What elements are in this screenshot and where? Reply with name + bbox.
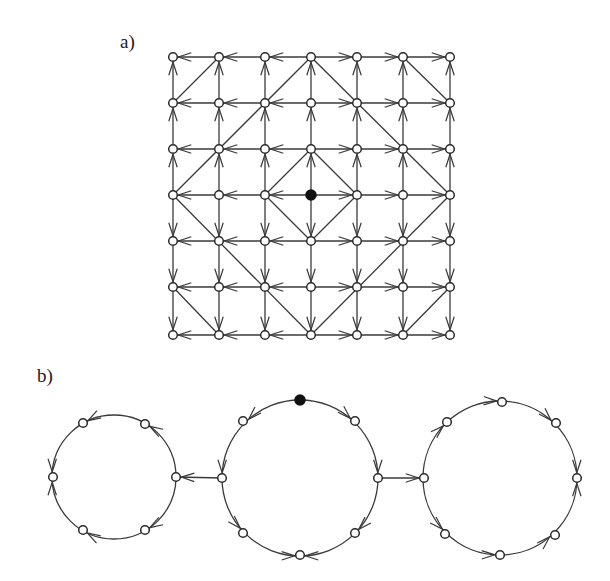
grid-node — [446, 237, 455, 246]
diagonal-line — [265, 149, 311, 195]
cycle-node — [498, 398, 507, 407]
diagonal-line — [265, 195, 311, 241]
arrowhead-icon — [88, 411, 101, 421]
grid-node — [215, 283, 224, 292]
grid-node — [261, 283, 270, 292]
arrowhead-icon — [573, 460, 581, 473]
grid-node — [169, 331, 178, 340]
grid-node — [169, 99, 178, 108]
arrowhead-icon — [218, 460, 226, 473]
arrowhead-icon — [482, 551, 495, 559]
left-cycle-ring — [52, 415, 176, 539]
diagonal-line — [311, 195, 357, 241]
grid-node — [446, 283, 455, 292]
cycle-node — [239, 529, 248, 538]
grid-node — [399, 99, 408, 108]
grid-node — [261, 99, 270, 108]
cycle-node — [552, 419, 561, 428]
cycle-node — [496, 551, 505, 560]
grid-node — [446, 99, 455, 108]
arrowhead-icon — [48, 482, 56, 495]
grid-node — [215, 331, 224, 340]
arrowhead-icon — [87, 533, 100, 543]
cycle-node — [420, 474, 429, 483]
grid-node — [353, 99, 362, 108]
grid-node — [169, 145, 178, 154]
grid-node — [307, 237, 316, 246]
grid-node — [353, 331, 362, 340]
grid-node — [446, 145, 455, 154]
cycle-node — [441, 530, 450, 539]
figure-canvas: a) b) — [0, 0, 610, 581]
cycle-node — [573, 474, 582, 483]
grid-node — [215, 145, 224, 154]
grid-node — [399, 191, 408, 200]
cycle-node — [374, 474, 383, 483]
grid-node — [261, 237, 270, 246]
diagonal-line — [173, 287, 219, 335]
graph-diagram — [0, 0, 610, 581]
grid-node — [399, 283, 408, 292]
cycle-graph-panel-b — [48, 395, 581, 560]
grid-node — [446, 53, 455, 62]
grid-node — [169, 237, 178, 246]
arrowhead-icon — [573, 483, 581, 496]
source-node — [295, 395, 305, 405]
diagonal-line — [311, 149, 357, 195]
grid-node — [169, 191, 178, 200]
grid-node — [399, 145, 408, 154]
grid-node — [215, 237, 224, 246]
cycle-node — [296, 551, 305, 560]
grid-node — [399, 331, 408, 340]
grid-node — [169, 283, 178, 292]
arrowhead-icon — [374, 460, 382, 473]
grid-node — [353, 145, 362, 154]
cycle-node — [141, 420, 150, 429]
diagonal-line — [173, 57, 311, 195]
cycle-node — [239, 417, 248, 426]
grid-node — [353, 53, 362, 62]
cycle-node — [141, 526, 150, 535]
grid-node — [307, 331, 316, 340]
diagonal-line — [311, 195, 450, 335]
diagonal-line — [311, 57, 450, 195]
diagonal-line — [403, 57, 450, 103]
grid-node — [169, 53, 178, 62]
grid-graph-panel-a — [169, 53, 455, 340]
cycle-node — [49, 473, 58, 482]
arrowhead-icon — [48, 459, 56, 472]
cycle-node — [79, 526, 88, 535]
arrowhead-icon — [282, 552, 295, 560]
cycle-node — [218, 474, 227, 483]
grid-node — [261, 331, 270, 340]
grid-node — [261, 191, 270, 200]
grid-node — [261, 145, 270, 154]
diagonal-line — [173, 57, 219, 103]
grid-node — [353, 191, 362, 200]
grid-node — [215, 191, 224, 200]
grid-node — [307, 99, 316, 108]
cycle-node — [351, 529, 360, 538]
cycle-node — [443, 418, 452, 427]
cycle-node — [551, 531, 560, 540]
cycle-node — [351, 417, 360, 426]
source-node — [306, 190, 316, 200]
grid-node — [399, 237, 408, 246]
grid-node — [446, 191, 455, 200]
grid-node — [307, 53, 316, 62]
diagonal-line — [173, 195, 311, 335]
arrowhead-icon — [484, 397, 497, 405]
grid-node — [215, 99, 224, 108]
arrowhead-icon — [305, 552, 318, 560]
grid-node — [353, 237, 362, 246]
grid-node — [307, 145, 316, 154]
grid-node — [399, 53, 408, 62]
grid-node — [215, 53, 224, 62]
grid-node — [261, 53, 270, 62]
grid-node — [353, 283, 362, 292]
cycle-node — [79, 419, 88, 428]
grid-node — [446, 331, 455, 340]
grid-node — [307, 283, 316, 292]
diagonal-line — [403, 287, 450, 335]
cycle-node — [172, 473, 181, 482]
